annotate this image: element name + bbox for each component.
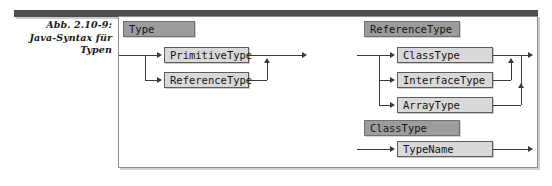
rule-head-referencetype: ReferenceType — [364, 21, 460, 37]
rule2-branch1-line — [379, 55, 390, 56]
syntax-diagram-pane: Type PrimitiveType ReferenceType Referen… — [118, 16, 538, 168]
rule1-entry-line — [119, 55, 145, 56]
rule2-merge-line-upper — [511, 62, 512, 80]
symbol-box-typename: TypeName — [397, 141, 493, 157]
rule2-branch2-arrow-icon — [390, 77, 395, 83]
rule1-branch1-line — [145, 55, 157, 56]
rule1-exit-arrow-icon — [302, 52, 307, 58]
symbol-box-arraytype: ArrayType — [397, 97, 493, 113]
rule1-exit-line — [276, 55, 302, 56]
rule2-merge-line-lower — [521, 87, 522, 105]
rule2-branch3-line — [379, 105, 390, 106]
rule2-branch3-arrow-icon — [390, 102, 395, 108]
rule2-merge-arrow-upper-icon — [508, 58, 514, 63]
rule-head-type: Type — [123, 21, 195, 37]
rule1-alt2-exit-line — [249, 80, 267, 81]
symbol-box-primitivetype: PrimitiveType — [164, 47, 249, 63]
rule1-split-line — [145, 55, 146, 80]
symbol-box-referencetype: ReferenceType — [164, 72, 249, 88]
figure-caption: Abb. 2.10-9: Java-Syntax für Typen — [8, 19, 112, 57]
rule1-merge-line — [267, 62, 268, 80]
rule2-alt3-exit-line — [493, 105, 521, 106]
rule2-merge-riser — [521, 55, 522, 87]
caption-line-1: Abb. 2.10-9: — [8, 19, 112, 32]
rule-head-classtype: ClassType — [364, 120, 460, 136]
caption-line-2: Java-Syntax für — [8, 32, 112, 45]
rule3-exit-arrow-icon — [528, 146, 533, 152]
rule2-branch1-arrow-icon — [390, 52, 395, 58]
rule1-branch2-line — [145, 80, 157, 81]
rule3-entry-arrow-icon — [390, 146, 395, 152]
rule2-branch2-line — [379, 80, 390, 81]
caption-line-3: Typen — [8, 44, 112, 57]
rule1-branch2-arrow-icon — [157, 77, 162, 83]
symbol-box-interfacetype: InterfaceType — [397, 72, 493, 88]
rule3-entry-line — [357, 149, 390, 150]
rule2-alt1-exit-line — [493, 55, 521, 56]
rule2-exit-arrow-icon — [528, 52, 533, 58]
pane-shadow-right — [538, 18, 540, 170]
rule1-branch1-arrow-icon — [157, 52, 162, 58]
pane-shadow-bottom — [120, 168, 540, 170]
rule3-exit-line — [493, 149, 532, 150]
figure-root: Abb. 2.10-9: Java-Syntax für Typen Type … — [0, 0, 552, 186]
rule2-entry-line — [357, 55, 379, 56]
rule1-alt1-exit-line — [249, 55, 276, 56]
rule2-alt2-exit-line — [493, 80, 511, 81]
rule1-merge-arrow-icon — [264, 58, 270, 63]
symbol-box-classtype: ClassType — [397, 47, 493, 63]
